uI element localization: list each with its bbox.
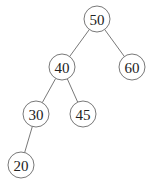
- node-label: 60: [125, 60, 140, 76]
- node-label: 50: [90, 12, 105, 28]
- tree-node-30: 30: [23, 101, 49, 127]
- node-label: 45: [76, 107, 91, 123]
- tree-node-60: 60: [119, 54, 145, 80]
- nodes: 504060304520: [8, 6, 145, 178]
- node-label: 20: [14, 158, 29, 174]
- edge-40-45: [67, 79, 77, 102]
- edge-30-20: [25, 126, 33, 152]
- node-label: 40: [55, 60, 70, 76]
- edge-50-60: [105, 30, 125, 57]
- edge-40-30: [42, 78, 55, 102]
- tree-node-40: 40: [49, 54, 75, 80]
- edge-50-40: [70, 30, 90, 57]
- node-label: 30: [29, 107, 44, 123]
- tree-node-20: 20: [8, 152, 34, 178]
- tree-node-50: 50: [84, 6, 110, 32]
- edges: [25, 30, 125, 153]
- binary-tree-diagram: 504060304520: [0, 0, 152, 186]
- tree-node-45: 45: [70, 101, 96, 127]
